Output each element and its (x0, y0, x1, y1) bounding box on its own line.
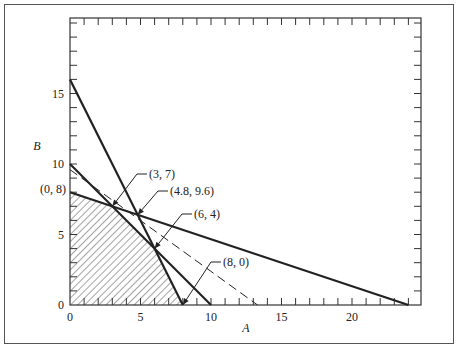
x-tick-label: 10 (205, 310, 217, 324)
y-axis-label: B (33, 139, 41, 153)
x-tick-label: 20 (346, 310, 358, 324)
y-tick-label: 5 (58, 228, 64, 242)
arrow-3-7 (112, 174, 147, 206)
feasible-region (70, 192, 183, 305)
x-tick-label: 15 (276, 310, 288, 324)
x-axis-label: A (241, 321, 250, 335)
annotation-4-8-9-6: (4.8, 9.6) (170, 184, 214, 198)
y-tick-label: 0 (58, 298, 64, 312)
annotation-0-8: (0, 8) (40, 182, 66, 196)
annotation-3-7: (3, 7) (149, 167, 175, 181)
y-tick-label: 10 (52, 157, 64, 171)
arrowhead-icon (155, 242, 161, 249)
annotation-6-4: (6, 4) (194, 207, 220, 221)
lp-feasible-region-chart: 05101520051015AB(0, 8)(3, 7)(4.8, 9.6)(6… (0, 0, 459, 348)
arrowhead-icon (183, 298, 189, 305)
arrowhead-icon (112, 200, 118, 207)
annotation-8-0: (8, 0) (223, 255, 249, 269)
y-tick-label: 15 (52, 87, 64, 101)
x-tick-label: 0 (67, 310, 73, 324)
x-tick-label: 5 (138, 310, 144, 324)
